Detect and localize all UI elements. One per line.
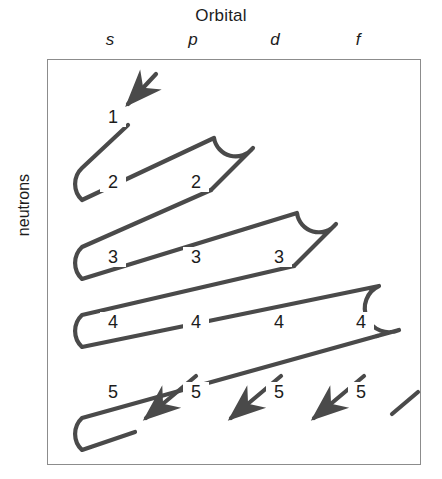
shell-label: 1 <box>100 107 126 127</box>
column-header-s: s <box>95 30 125 50</box>
shell-label: 5 <box>100 382 126 402</box>
shell-label: 5 <box>183 382 209 402</box>
shell-label: 4 <box>100 312 126 332</box>
shell-label: 5 <box>348 382 374 402</box>
shell-label: 3 <box>266 247 292 267</box>
column-header-d: d <box>260 30 290 50</box>
shell-label: 4 <box>183 312 209 332</box>
orbital-filling-diagram: Orbital s p d f neutrons <box>0 0 442 479</box>
column-header-p: p <box>178 30 208 50</box>
shell-label: 5 <box>266 382 292 402</box>
shell-label: 2 <box>100 172 126 192</box>
shell-label: 3 <box>100 247 126 267</box>
shell-label: 4 <box>266 312 292 332</box>
shell-label: 2 <box>183 172 209 192</box>
y-axis-label: neutrons <box>15 159 33 251</box>
shell-label: 4 <box>348 312 374 332</box>
shell-label: 3 <box>183 247 209 267</box>
column-header-f: f <box>343 30 373 50</box>
page-title: Orbital <box>0 6 442 26</box>
